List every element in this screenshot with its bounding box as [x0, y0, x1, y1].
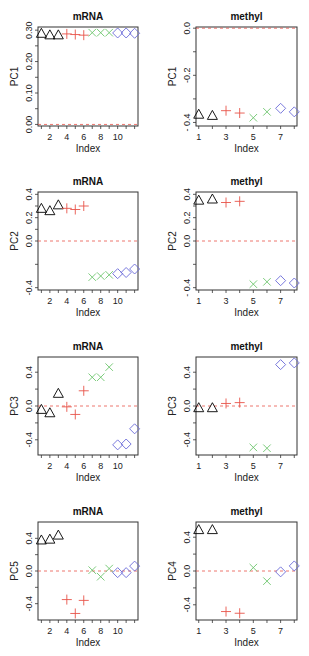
- y-axis-label: PC1: [167, 66, 178, 86]
- cross-marker: [97, 29, 104, 37]
- diamond-marker: [113, 440, 123, 450]
- plus-marker: [221, 106, 231, 116]
- plus-marker: [79, 595, 89, 605]
- y-tick-label: -0.4: [24, 280, 34, 296]
- diamond-marker: [276, 103, 286, 113]
- diamond-marker: [289, 561, 299, 571]
- triangle-marker: [53, 200, 63, 209]
- y-tick-label: 0.2: [182, 211, 192, 224]
- y-axis-label: PC2: [9, 231, 20, 251]
- diamond-marker: [289, 107, 299, 117]
- x-tick-label: 2: [47, 461, 52, 471]
- plus-marker: [235, 196, 245, 206]
- x-tick-label: 1: [196, 296, 201, 306]
- x-tick-label: 3: [224, 626, 229, 636]
- y-tick-label: 0.4: [182, 188, 192, 201]
- chart-title: mRNA: [73, 11, 104, 22]
- chart-panel-1: mRNA246810Index0.000.100.200.30PC1: [9, 11, 140, 154]
- x-tick-label: 3: [224, 132, 229, 142]
- chart-title: mRNA: [73, 341, 104, 352]
- cross-marker: [250, 280, 257, 288]
- cross-marker: [250, 444, 257, 452]
- x-tick-label: 4: [64, 626, 69, 636]
- y-tick-label: - 0.4: [182, 279, 192, 297]
- x-tick-label: 5: [251, 296, 256, 306]
- plus-marker: [235, 398, 245, 408]
- y-tick-label: 0.20: [24, 53, 34, 71]
- chart-panel-7: mRNA246810Index-0.40.00.4PC5: [9, 506, 140, 648]
- x-axis-label: Index: [76, 307, 100, 318]
- plot-frame: [38, 27, 138, 126]
- cross-marker: [105, 363, 113, 371]
- x-tick-label: 5: [251, 461, 256, 471]
- x-tick-label: 7: [278, 461, 283, 471]
- y-tick-label: 0.0: [24, 565, 34, 578]
- triangle-marker: [207, 110, 217, 119]
- triangle-marker: [45, 408, 55, 417]
- cross-marker: [105, 565, 113, 573]
- pca-scatter-grid: mRNA246810Index0.000.100.200.30PC1methyl…: [0, 0, 309, 656]
- plus-marker: [62, 595, 72, 605]
- y-tick-label: 0.4: [24, 532, 34, 545]
- x-tick-label: 6: [81, 626, 86, 636]
- x-tick-label: 10: [113, 296, 123, 306]
- chart-title: methyl: [230, 341, 262, 352]
- x-tick-label: 7: [278, 132, 283, 142]
- y-tick-label: 0.0: [182, 235, 192, 248]
- x-tick-label: 8: [98, 296, 103, 306]
- chart-title: mRNA: [73, 176, 104, 187]
- x-tick-label: 7: [278, 626, 283, 636]
- x-tick-label: 8: [98, 626, 103, 636]
- x-tick-label: 10: [113, 626, 123, 636]
- plus-marker: [235, 108, 245, 118]
- y-axis-label: PC3: [9, 396, 20, 416]
- y-tick-label: -0.2: [182, 68, 192, 84]
- triangle-marker: [194, 195, 204, 204]
- y-tick-label: 0.30: [24, 21, 34, 39]
- plus-marker: [62, 402, 72, 412]
- y-axis-label: PC1: [9, 66, 20, 86]
- x-axis-label: Index: [76, 472, 100, 483]
- x-tick-label: 6: [81, 132, 86, 142]
- y-tick-label: 0.4: [24, 366, 34, 379]
- chart-panel-4: methyl1357Index- 0.40.00.20.4PC2: [167, 176, 299, 318]
- diamond-marker: [289, 278, 299, 288]
- plus-marker: [70, 409, 80, 419]
- x-tick-label: 4: [64, 296, 69, 306]
- diamond-marker: [113, 269, 123, 279]
- cross-marker: [263, 577, 271, 585]
- cross-marker: [97, 573, 104, 581]
- y-tick-label: 0.10: [24, 84, 34, 102]
- y-tick-label: -0.4: [182, 432, 192, 448]
- plus-marker: [221, 398, 231, 408]
- cross-marker: [263, 444, 271, 452]
- triangle-marker: [207, 194, 217, 203]
- triangle-marker: [207, 525, 217, 534]
- cross-marker: [263, 278, 271, 286]
- triangle-marker: [194, 525, 204, 534]
- y-tick-label: -0.4: [182, 597, 192, 613]
- cross-marker: [88, 566, 96, 574]
- x-axis-label: Index: [234, 307, 258, 318]
- triangle-marker: [194, 403, 204, 412]
- y-tick-label: - 0.4: [182, 113, 192, 131]
- chart-panel-2: methyl1357Index0.0-0.2- 0.4PC1: [167, 11, 299, 154]
- triangle-marker: [53, 388, 63, 397]
- x-tick-label: 8: [98, 132, 103, 142]
- plus-marker: [221, 198, 231, 208]
- plot-frame: [196, 27, 297, 126]
- triangle-marker: [207, 403, 217, 412]
- x-tick-label: 1: [196, 461, 201, 471]
- x-axis-label: Index: [76, 637, 100, 648]
- cross-marker: [105, 271, 113, 279]
- y-tick-label: -0.4: [24, 432, 34, 448]
- y-tick-label: 0.4: [24, 188, 34, 201]
- diamond-marker: [276, 360, 286, 370]
- y-axis-label: PC5: [9, 561, 20, 581]
- x-axis-label: Index: [76, 143, 100, 154]
- y-tick-label: 0.2: [24, 211, 34, 224]
- chart-panel-6: methyl1357Index-0.40.00.4PC3: [167, 341, 299, 483]
- x-axis-label: Index: [234, 637, 258, 648]
- y-tick-label: 0.00: [24, 116, 34, 134]
- x-tick-label: 5: [251, 132, 256, 142]
